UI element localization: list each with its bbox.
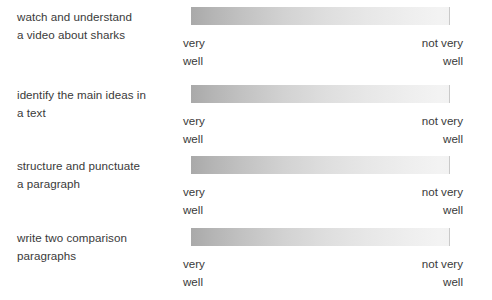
confidence-scale-bar[interactable] bbox=[191, 7, 450, 25]
scale-anchor-very-well: very well bbox=[183, 183, 205, 218]
self-assessment-worksheet: watch and understand a video about shark… bbox=[0, 0, 492, 300]
anchor-high-line-1: not very bbox=[422, 185, 463, 198]
anchor-high-line-1: not very bbox=[422, 114, 463, 127]
objective-line-1: watch and understand bbox=[17, 10, 132, 23]
anchor-low-line-1: very bbox=[183, 185, 205, 198]
scale-anchor-not-very-well: not very well bbox=[331, 255, 463, 290]
scale-anchor-not-very-well: not very well bbox=[331, 34, 463, 69]
anchor-low-line-2: well bbox=[183, 273, 205, 291]
anchor-high-line-1: not very bbox=[422, 36, 463, 49]
confidence-scale-bar[interactable] bbox=[191, 228, 450, 246]
anchor-high-line-2: well bbox=[331, 273, 463, 291]
scale-anchor-very-well: very well bbox=[183, 34, 205, 69]
objective-text: watch and understand a video about shark… bbox=[17, 8, 185, 43]
anchor-high-line-2: well bbox=[331, 52, 463, 70]
scale-anchor-very-well: very well bbox=[183, 255, 205, 290]
objective-line-2: paragraphs bbox=[17, 249, 76, 262]
confidence-scale-bar[interactable] bbox=[191, 156, 450, 174]
objective-line-1: identify the main ideas in bbox=[17, 88, 146, 101]
anchor-high-line-2: well bbox=[331, 130, 463, 148]
anchor-low-line-1: very bbox=[183, 36, 205, 49]
objective-text: identify the main ideas in a text bbox=[17, 86, 185, 121]
objective-line-2: a paragraph bbox=[17, 177, 80, 190]
objective-text: write two comparison paragraphs bbox=[17, 229, 185, 264]
scale-anchor-not-very-well: not very well bbox=[331, 112, 463, 147]
objective-text: structure and punctuate a paragraph bbox=[17, 157, 185, 192]
anchor-low-line-1: very bbox=[183, 114, 205, 127]
objective-line-1: write two comparison bbox=[17, 231, 127, 244]
scale-anchor-not-very-well: not very well bbox=[331, 183, 463, 218]
anchor-low-line-1: very bbox=[183, 257, 205, 270]
confidence-scale-bar[interactable] bbox=[191, 85, 450, 103]
anchor-low-line-2: well bbox=[183, 201, 205, 219]
scale-anchor-very-well: very well bbox=[183, 112, 205, 147]
objective-line-2: a video about sharks bbox=[17, 28, 125, 41]
objective-line-1: structure and punctuate bbox=[17, 159, 140, 172]
anchor-high-line-2: well bbox=[331, 201, 463, 219]
anchor-low-line-2: well bbox=[183, 52, 205, 70]
anchor-high-line-1: not very bbox=[422, 257, 463, 270]
objective-line-2: a text bbox=[17, 106, 46, 119]
anchor-low-line-2: well bbox=[183, 130, 205, 148]
